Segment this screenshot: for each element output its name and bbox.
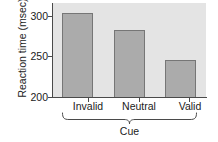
cue-group-bracket-icon: [52, 112, 207, 125]
y-tick-label-300: 300: [18, 11, 48, 21]
y-tick-label-250: 250: [18, 51, 48, 61]
y-axis-line: [52, 3, 53, 98]
bar-invalid: [62, 13, 93, 98]
y-axis-tick-labels: 300 250 200: [18, 0, 48, 100]
x-axis-group-title: Cue: [52, 125, 207, 137]
bar-chart-figure: Reaction time (msec) 300 250 200 Invalid…: [0, 0, 218, 142]
y-tick-label-200: 200: [18, 92, 48, 102]
x-category-label-neutral: Neutral: [113, 100, 165, 112]
x-category-label-invalid: Invalid: [62, 100, 114, 112]
bar-neutral: [114, 30, 145, 98]
bar-valid: [165, 60, 196, 98]
x-axis-line: [52, 97, 207, 98]
x-category-label-valid: Valid: [164, 100, 216, 112]
